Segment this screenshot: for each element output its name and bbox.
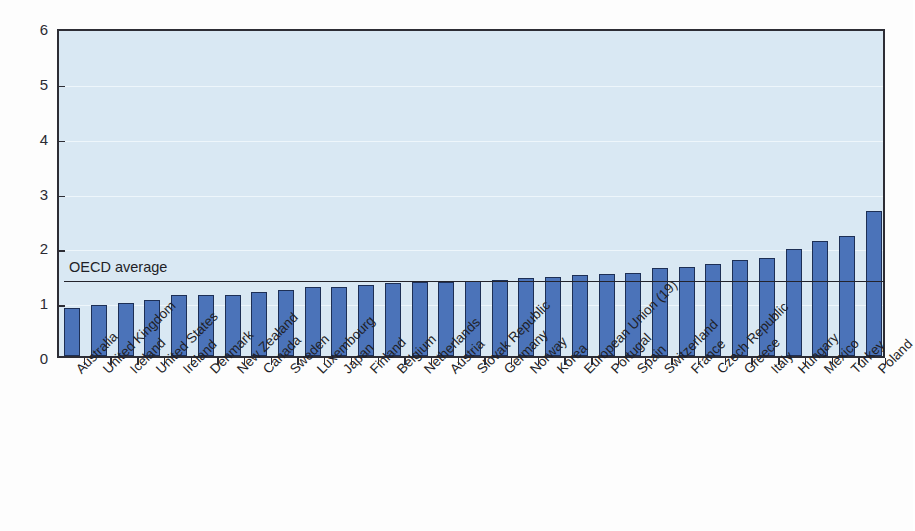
- gridline-y-2: [59, 250, 883, 251]
- x-tick-mark-18: [538, 358, 539, 365]
- x-tick-mark-16: [484, 358, 485, 365]
- y-tick-label-2: 2: [22, 240, 48, 257]
- x-tick-mark-7: [244, 358, 245, 365]
- x-tick-mark-30: [858, 358, 859, 365]
- x-tick-mark-20: [591, 358, 592, 365]
- x-tick-mark-14: [431, 358, 432, 365]
- x-tick-mark-1: [84, 358, 85, 365]
- x-tick-mark-29: [832, 358, 833, 365]
- x-tick-mark-5: [191, 358, 192, 365]
- oecd-average-label: OECD average: [69, 259, 167, 275]
- x-tick-mark-2: [110, 358, 111, 365]
- y-tick-mark-3: [59, 196, 65, 198]
- y-tick-mark-4: [59, 141, 65, 143]
- x-tick-mark-3: [137, 358, 138, 365]
- x-tick-mark-8: [271, 358, 272, 365]
- gridline-y-5: [59, 86, 883, 87]
- bar-poland: [866, 211, 882, 356]
- x-tick-mark-6: [217, 358, 218, 365]
- x-tick-mark-17: [511, 358, 512, 365]
- x-tick-mark-11: [351, 358, 352, 365]
- y-tick-mark-2: [59, 250, 65, 252]
- x-tick-mark-9: [297, 358, 298, 365]
- y-tick-label-0: 0: [22, 350, 48, 367]
- x-tick-mark-24: [698, 358, 699, 365]
- x-tick-mark-19: [564, 358, 565, 365]
- x-tick-mark-31: [885, 358, 886, 365]
- y-tick-label-5: 5: [22, 75, 48, 92]
- x-tick-mark-23: [671, 358, 672, 365]
- bar-hungary: [786, 249, 802, 356]
- y-axis-labels: 0123456: [0, 0, 48, 531]
- x-tick-mark-21: [618, 358, 619, 365]
- x-tick-mark-10: [324, 358, 325, 365]
- y-tick-label-1: 1: [22, 295, 48, 312]
- y-tick-label-6: 6: [22, 21, 48, 38]
- x-tick-mark-15: [458, 358, 459, 365]
- gridline-y-3: [59, 196, 883, 197]
- page-footer-bleed-artifact: [610, 512, 910, 530]
- x-tick-mark-27: [778, 358, 779, 365]
- bar-australia: [64, 308, 80, 356]
- x-tick-mark-12: [378, 358, 379, 365]
- x-tick-mark-4: [164, 358, 165, 365]
- gridline-y-4: [59, 141, 883, 142]
- oecd-average-line: [64, 281, 885, 283]
- x-tick-mark-28: [805, 358, 806, 365]
- x-tick-mark-22: [645, 358, 646, 365]
- plot-area: [57, 29, 885, 358]
- x-tick-mark-26: [751, 358, 752, 365]
- x-tick-mark-13: [404, 358, 405, 365]
- y-tick-label-4: 4: [22, 130, 48, 147]
- x-tick-mark-25: [725, 358, 726, 365]
- y-tick-mark-1: [59, 305, 65, 307]
- y-tick-mark-5: [59, 86, 65, 88]
- y-tick-label-3: 3: [22, 185, 48, 202]
